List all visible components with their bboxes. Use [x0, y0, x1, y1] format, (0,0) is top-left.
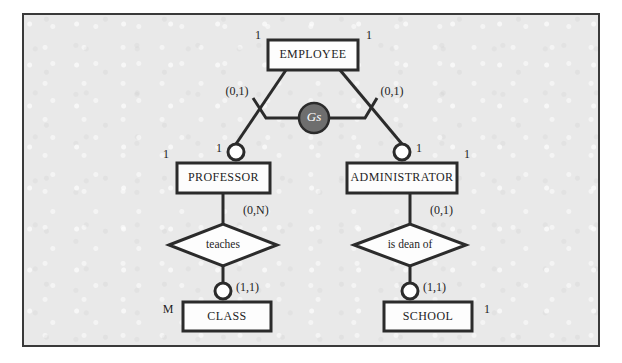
cardinality-school-right: 1: [484, 302, 490, 316]
cardinality-employee-professor: (0,1): [226, 84, 249, 98]
cardinality-class-left: M: [163, 302, 174, 316]
generalization-layer: Gs: [299, 103, 329, 133]
diagram-canvas: Gs teachesis dean of EMPLOYEEPROFESSORAD…: [0, 0, 622, 363]
cardinality-professor-left: 1: [163, 147, 169, 161]
generalization-label: Gs: [307, 109, 321, 124]
cardinality-professor-conn: 1: [216, 141, 222, 155]
connector-school-top: [402, 283, 418, 299]
edge-gs-stub-left: [253, 98, 299, 118]
edge-gs-stub-right: [329, 98, 377, 118]
relationships-layer: teachesis dean of: [169, 224, 466, 266]
cardinality-employee-right: 1: [366, 28, 372, 42]
er-diagram: Gs teachesis dean of EMPLOYEEPROFESSORAD…: [0, 0, 622, 363]
connector-administrator-top: [394, 144, 410, 160]
cardinality-admin-isdeanof: (0,1): [430, 203, 453, 217]
cardinality-admin-right: 1: [464, 147, 470, 161]
entity-label-professor: PROFESSOR: [188, 170, 259, 184]
edge-employee-to-professor: [236, 70, 286, 144]
cardinality-employee-left: 1: [255, 28, 261, 42]
connector-class-top: [215, 283, 231, 299]
cardinality-professor-teaches: (0,N): [243, 203, 269, 217]
relationship-label-is-dean-of: is dean of: [388, 238, 433, 250]
connector-professor-top: [228, 144, 244, 160]
entity-label-class: CLASS: [207, 309, 246, 323]
entity-label-school: SCHOOL: [403, 309, 453, 323]
entity-label-administrator: ADMINISTRATOR: [351, 170, 454, 184]
cardinality-admin-conn: 1: [416, 141, 422, 155]
cardinality-employee-admin: (0,1): [381, 84, 404, 98]
relationship-label-teaches: teaches: [206, 238, 240, 250]
entity-label-employee: EMPLOYEE: [279, 47, 346, 61]
cardinality-teaches-class: (1,1): [236, 280, 259, 294]
cardinality-isdeanof-school: (1,1): [423, 280, 446, 294]
